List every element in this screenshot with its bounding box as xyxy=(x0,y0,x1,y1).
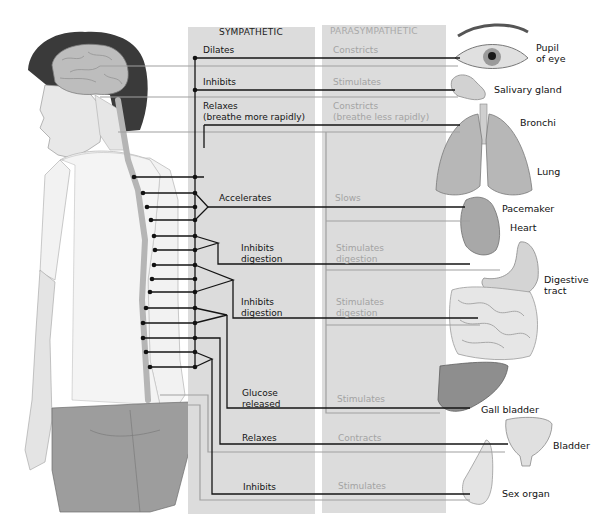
organ-label-gall-bladder: Gall bladder xyxy=(481,404,539,415)
sympathetic-effect-heart: Accelerates xyxy=(219,193,271,204)
ganglion-nodes xyxy=(132,56,198,370)
organ-label-bronchi: Bronchi xyxy=(520,117,556,128)
sympathetic-effect-sex-organ: Inhibits xyxy=(243,482,276,493)
organ-label-pacemaker: Pacemaker xyxy=(502,203,554,214)
nerve-wiring xyxy=(0,0,610,532)
parasympathetic-effect-digestion-2: Stimulates digestion xyxy=(336,297,384,318)
parasympathetic-nerves xyxy=(100,66,505,500)
organ-label-lung: Lung xyxy=(537,166,560,177)
organ-label-bladder: Bladder xyxy=(553,440,590,451)
sympathetic-effect-liver: Glucose released xyxy=(242,388,281,409)
sympathetic-effect-bronchi: Relaxes (breathe more rapidly) xyxy=(203,101,305,122)
sympathetic-effect-salivary: Inhibits xyxy=(203,77,236,88)
parasympathetic-effect-liver: Stimulates xyxy=(337,394,385,405)
parasympathetic-effect-pupil: Constricts xyxy=(333,45,378,56)
parasympathetic-effect-sex-organ: Stimulates xyxy=(338,481,386,492)
sympathetic-header: SYMPATHETIC xyxy=(219,27,283,37)
parasympathetic-effect-heart: Slows xyxy=(335,193,361,204)
parasympathetic-effect-bladder: Contracts xyxy=(338,433,381,444)
sympathetic-effect-digestion-1: Inhibits digestion xyxy=(241,243,282,264)
sympathetic-nerves xyxy=(134,58,508,494)
sympathetic-effect-bladder: Relaxes xyxy=(242,433,277,444)
parasympathetic-header: PARASYMPATHETIC xyxy=(330,26,418,36)
organ-label-salivary: Salivary gland xyxy=(494,84,562,95)
organ-label-digestive-tract: Digestive tract xyxy=(544,274,589,296)
organ-label-sex-organ: Sex organ xyxy=(502,488,550,499)
sympathetic-effect-digestion-2: Inhibits digestion xyxy=(241,297,282,318)
parasympathetic-effect-salivary: Stimulates xyxy=(333,77,381,88)
parasympathetic-effect-digestion-1: Stimulates digestion xyxy=(336,243,384,264)
organ-label-pupil: Pupil of eye xyxy=(536,42,566,64)
parasympathetic-effect-bronchi: Constricts (breathe less rapidly) xyxy=(333,101,429,122)
organ-label-heart: Heart xyxy=(510,222,536,233)
sympathetic-effect-pupil: Dilates xyxy=(203,45,234,56)
